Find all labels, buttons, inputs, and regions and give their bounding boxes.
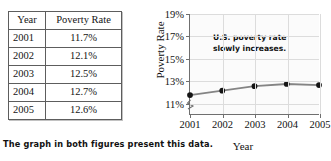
table-row: 2002 12.1% bbox=[9, 48, 122, 66]
x-tick-label: 2004 bbox=[277, 119, 298, 130]
x-tick-mark bbox=[223, 114, 224, 118]
y-tick-mark bbox=[186, 59, 190, 60]
poverty-rate-table: Year Poverty Rate 2001 11.7% 2002 12.1% … bbox=[8, 11, 122, 120]
x-tick-label: 2005 bbox=[310, 119, 331, 130]
cell-year: 2003 bbox=[9, 66, 46, 84]
y-tick-label: 13% bbox=[165, 76, 184, 87]
table-row: 2004 12.7% bbox=[9, 84, 122, 102]
column-header-poverty-rate: Poverty Rate bbox=[46, 12, 122, 30]
table-row: 2001 11.7% bbox=[9, 30, 122, 48]
x-tick-mark bbox=[288, 114, 289, 118]
x-tick-mark bbox=[190, 114, 191, 118]
chart-plot-area: U.S. poverty rate slowly increases. 19%1… bbox=[189, 14, 319, 115]
table-row: 2005 12.6% bbox=[9, 102, 122, 120]
y-tick-mark bbox=[186, 36, 190, 37]
y-tick-mark bbox=[186, 81, 190, 82]
y-tick-label: 19% bbox=[165, 9, 184, 20]
y-tick-label: 15% bbox=[165, 53, 184, 64]
table-header-row: Year Poverty Rate bbox=[9, 12, 122, 30]
gridline-vertical bbox=[223, 14, 224, 114]
gridline-vertical bbox=[255, 14, 256, 114]
annotation-line-1: U.S. poverty rate bbox=[213, 32, 286, 43]
cell-poverty-rate: 11.7% bbox=[46, 30, 122, 48]
cell-poverty-rate: 12.1% bbox=[46, 48, 122, 66]
y-tick-label: 17% bbox=[165, 31, 184, 42]
gridline-vertical bbox=[288, 14, 289, 114]
x-tick-label: 2003 bbox=[245, 119, 266, 130]
data-point-marker bbox=[187, 92, 193, 98]
column-header-year: Year bbox=[9, 12, 46, 30]
data-point-marker bbox=[316, 82, 322, 88]
axis-break-icon bbox=[186, 99, 195, 111]
cell-year: 2004 bbox=[9, 84, 46, 102]
cell-year: 2005 bbox=[9, 102, 46, 120]
chart-annotation: U.S. poverty rate slowly increases. bbox=[213, 32, 286, 54]
cell-poverty-rate: 12.7% bbox=[46, 84, 122, 102]
x-tick-label: 2002 bbox=[212, 119, 233, 130]
cell-year: 2001 bbox=[9, 30, 46, 48]
y-tick-mark bbox=[186, 14, 190, 15]
annotation-line-2: slowly increases. bbox=[213, 43, 286, 54]
x-tick-mark bbox=[255, 114, 256, 118]
x-tick-mark bbox=[320, 114, 321, 118]
x-axis-title: Year bbox=[188, 140, 298, 152]
gridline-vertical bbox=[320, 14, 321, 114]
table-row: 2003 12.5% bbox=[9, 66, 122, 84]
cell-poverty-rate: 12.5% bbox=[46, 66, 122, 84]
cell-poverty-rate: 12.6% bbox=[46, 102, 122, 120]
poverty-rate-table-figure: Year Poverty Rate 2001 11.7% 2002 12.1% … bbox=[8, 11, 122, 120]
y-tick-label: 11% bbox=[165, 98, 184, 109]
poverty-rate-line-chart: Poverty Rate U.S. poverty rate slowly in… bbox=[140, 0, 324, 161]
cell-year: 2002 bbox=[9, 48, 46, 66]
x-tick-label: 2001 bbox=[180, 119, 201, 130]
y-tick-mark bbox=[186, 104, 190, 105]
